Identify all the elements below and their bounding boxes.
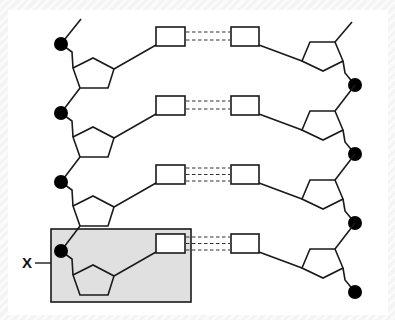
sugar-base-bond	[114, 183, 156, 207]
deoxyribose-pentagon-icon	[73, 127, 114, 157]
deoxyribose-pentagon-icon	[302, 249, 343, 278]
phosphate-circle-icon	[54, 37, 68, 51]
phosphate-circle-icon	[54, 175, 68, 189]
deoxyribose-pentagon-icon	[73, 58, 114, 88]
deoxyribose-pentagon-icon	[302, 180, 343, 209]
phosphate-circle-icon	[54, 244, 68, 258]
sugar-base-bond	[259, 114, 302, 130]
dna-diagram: X	[0, 0, 395, 320]
nitrogenous-base-rect-icon	[231, 234, 259, 253]
label-x: X	[22, 254, 32, 271]
nitrogenous-base-rect-icon	[231, 27, 259, 46]
nitrogenous-base-rect-icon	[156, 165, 185, 184]
deoxyribose-pentagon-icon	[73, 196, 114, 226]
sugar-base-bond	[259, 45, 302, 61]
nitrogenous-base-rect-icon	[156, 27, 185, 46]
backbone-bond	[335, 85, 355, 111]
backbone-bond	[335, 223, 355, 249]
deoxyribose-pentagon-icon	[302, 42, 343, 71]
phosphate-circle-icon	[348, 285, 362, 299]
nitrogenous-base-rect-icon	[231, 96, 259, 115]
sugar-base-bond	[114, 45, 156, 69]
phosphate-circle-icon	[54, 106, 68, 120]
nitrogenous-base-rect-icon	[156, 96, 185, 115]
sugar-base-bond	[114, 114, 156, 138]
sugar-base-bond	[259, 183, 302, 199]
sugar-base-bond	[259, 252, 302, 268]
nitrogenous-base-rect-icon	[156, 234, 185, 253]
deoxyribose-pentagon-icon	[302, 111, 343, 140]
backbone-bond	[335, 154, 355, 180]
backbone-bond	[335, 22, 352, 42]
nitrogenous-base-rect-icon	[231, 165, 259, 184]
